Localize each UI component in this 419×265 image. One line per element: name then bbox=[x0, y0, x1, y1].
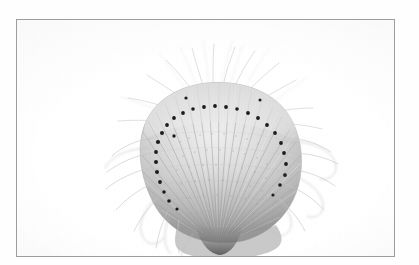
photo-page bbox=[0, 0, 419, 265]
photo-frame bbox=[16, 19, 395, 257]
scallop-photograph bbox=[17, 20, 395, 257]
photo-stage bbox=[17, 20, 394, 256]
shell-body bbox=[140, 82, 301, 246]
